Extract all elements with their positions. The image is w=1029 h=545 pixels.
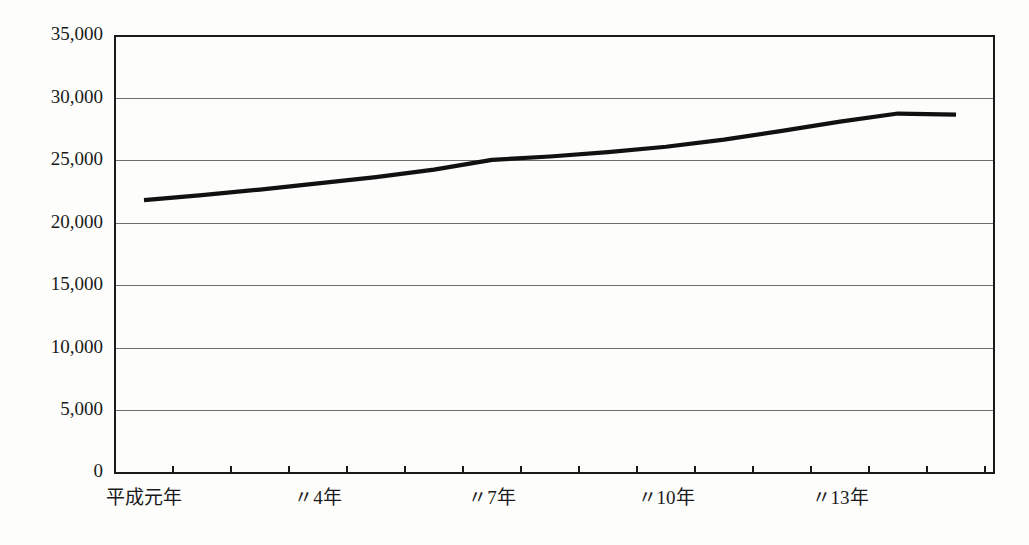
y-axis-tick-label: 5,000 [60, 398, 103, 419]
x-axis-tick-label: 〃4年 [294, 487, 342, 508]
line-chart: 35,00030,00025,00020,00015,00010,0005,00… [0, 0, 1029, 545]
y-axis-tick-label: 10,000 [51, 336, 103, 357]
y-axis-tick-label: 20,000 [51, 211, 103, 232]
x-axis-tick-label: 〃13年 [812, 487, 869, 508]
y-axis-tick-label: 35,000 [51, 23, 103, 44]
y-axis-tick-label: 25,000 [51, 148, 103, 169]
x-axis-tick-label: 〃7年 [468, 487, 516, 508]
y-axis-tick-label: 15,000 [51, 273, 103, 294]
y-axis-tick-label: 30,000 [51, 86, 103, 107]
x-axis-tick-label: 平成元年 [106, 487, 182, 508]
chart-background [0, 0, 1029, 545]
x-axis-tick-label: 〃10年 [638, 487, 695, 508]
y-axis-tick-label: 0 [94, 460, 104, 481]
chart-page: 35,00030,00025,00020,00015,00010,0005,00… [0, 0, 1029, 545]
